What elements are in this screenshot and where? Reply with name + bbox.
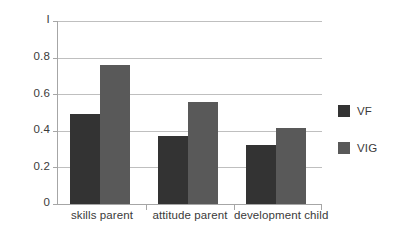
y-tickmark-0 (53, 204, 58, 205)
y-tickmark-0-6 (53, 94, 58, 95)
x-tick-label-attitude-parent: attitude parent (146, 209, 234, 221)
y-tick-label-0-6: 0.6 (0, 87, 50, 99)
legend-item-vig: VIG (338, 141, 398, 155)
legend-swatch-icon-vf (338, 105, 350, 117)
legend-swatch-icon-vig (338, 142, 350, 154)
legend: VF VIG (338, 104, 398, 178)
y-tick-label-0: 0 (0, 196, 50, 208)
legend-label-vig: VIG (357, 142, 377, 154)
bars-layer (58, 21, 322, 204)
bar-vf-skills-parent (70, 114, 100, 204)
y-tick-label-1-0: I (0, 13, 50, 25)
plot-area (58, 21, 322, 204)
x-axis-tick-labels: skills parent attitude parent developmen… (58, 209, 322, 231)
y-tick-label-0-2: 0.2 (0, 160, 50, 172)
y-axis-line (57, 21, 58, 205)
bar-vf-development-child (246, 145, 276, 204)
bar-vig-attitude-parent (188, 102, 218, 204)
y-tick-label-0-4: 0.4 (0, 123, 50, 135)
bar-vig-skills-parent (100, 65, 130, 204)
y-axis-tick-labels: I 0.8 0.6 0.4 0.2 0 (0, 0, 52, 240)
y-tickmark-0-8 (53, 58, 58, 59)
bar-vf-attitude-parent (158, 136, 188, 204)
y-tickmark-0-4 (53, 131, 58, 132)
y-tickmark-1-0 (53, 21, 58, 22)
y-tick-label-0-8: 0.8 (0, 50, 50, 62)
y-tickmark-0-2 (53, 167, 58, 168)
x-tick-label-development-child: development child (234, 209, 322, 221)
legend-item-vf: VF (338, 104, 398, 118)
x-tick-label-skills-parent: skills parent (58, 209, 146, 221)
axis-baseline (58, 204, 322, 205)
bar-vig-development-child (276, 128, 306, 204)
bar-chart-figure: I 0.8 0.6 0.4 0.2 0 skills parent attitu… (0, 0, 400, 240)
legend-label-vf: VF (357, 105, 372, 117)
